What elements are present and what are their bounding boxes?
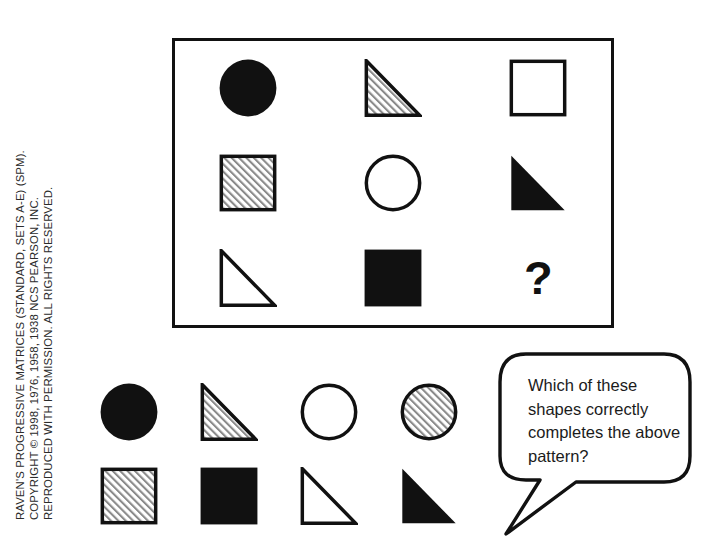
answer-options-grid — [96, 370, 496, 538]
matrix-cell-r1c3 — [466, 41, 611, 136]
copyright-line-3: REPRODUCED WITH PERMISSION. ALL RIGHTS R… — [42, 187, 54, 520]
answer-option-3[interactable] — [296, 370, 396, 454]
matrix-cell-r1c1 — [175, 41, 320, 136]
answer-option-7[interactable] — [296, 454, 396, 538]
matrix-shape-outline-circle — [364, 154, 422, 212]
option-shape-hatched-triangle[interactable] — [200, 383, 258, 441]
copyright-line-2: COPYRIGHT © 1998, 1976, 1958, 1938 NCS P… — [28, 197, 40, 520]
matrix-shape-hatched-triangle — [364, 59, 422, 117]
matrix-cell-r3c1 — [175, 230, 320, 325]
option-shape-outline-circle[interactable] — [300, 383, 358, 441]
option-shape-outline-triangle[interactable] — [300, 467, 358, 525]
matrix-cell-r3c2 — [320, 230, 465, 325]
matrix-shape-solid-circle — [219, 59, 277, 117]
matrix-shape-outline-square — [509, 59, 567, 117]
matrix-grid: ? — [175, 41, 611, 325]
option-shape-hatched-circle[interactable] — [400, 383, 458, 441]
answer-option-6[interactable] — [196, 454, 296, 538]
answer-option-4[interactable] — [396, 370, 496, 454]
matrix-shape-outline-triangle — [219, 249, 277, 307]
matrix-cell-r3c3: ? — [466, 230, 611, 325]
copyright-notice: RAVEN'S PROGRESSIVE MATRICES (STANDARD, … — [0, 0, 70, 540]
answer-option-2[interactable] — [196, 370, 296, 454]
speech-bubble-text: Which of these shapes correctly complete… — [528, 374, 688, 468]
answer-option-8[interactable] — [396, 454, 496, 538]
copyright-line-1: RAVEN'S PROGRESSIVE MATRICES (STANDARD, … — [14, 150, 26, 520]
matrix-cell-r1c2 — [320, 41, 465, 136]
answer-options — [96, 370, 496, 538]
matrix-cell-r2c3 — [466, 136, 611, 231]
missing-cell-question-mark: ? — [524, 254, 553, 301]
matrix-shape-solid-square — [364, 249, 422, 307]
option-shape-solid-triangle[interactable] — [400, 467, 458, 525]
matrix-cell-r2c1 — [175, 136, 320, 231]
matrix-shape-solid-triangle — [509, 154, 567, 212]
matrix-panel: ? — [172, 38, 614, 328]
answer-option-1[interactable] — [96, 370, 196, 454]
speech-bubble: Which of these shapes correctly complete… — [498, 352, 720, 538]
option-shape-solid-square[interactable] — [200, 467, 258, 525]
answer-option-5[interactable] — [96, 454, 196, 538]
matrix-cell-r2c2 — [320, 136, 465, 231]
option-shape-hatched-square[interactable] — [100, 467, 158, 525]
matrix-shape-hatched-square — [219, 154, 277, 212]
option-shape-solid-circle[interactable] — [100, 383, 158, 441]
